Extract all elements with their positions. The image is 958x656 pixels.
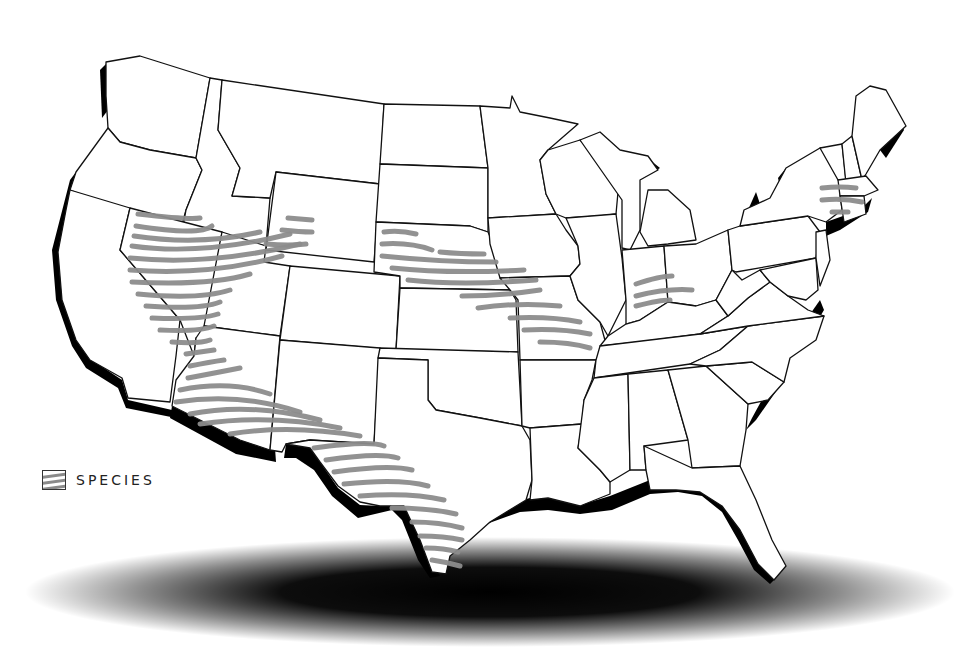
hatched-swatch-icon bbox=[42, 470, 66, 490]
ground-shadow bbox=[25, 537, 955, 647]
legend: SPECIES bbox=[42, 470, 155, 490]
us-map bbox=[0, 0, 958, 656]
legend-label-species: SPECIES bbox=[76, 472, 155, 488]
